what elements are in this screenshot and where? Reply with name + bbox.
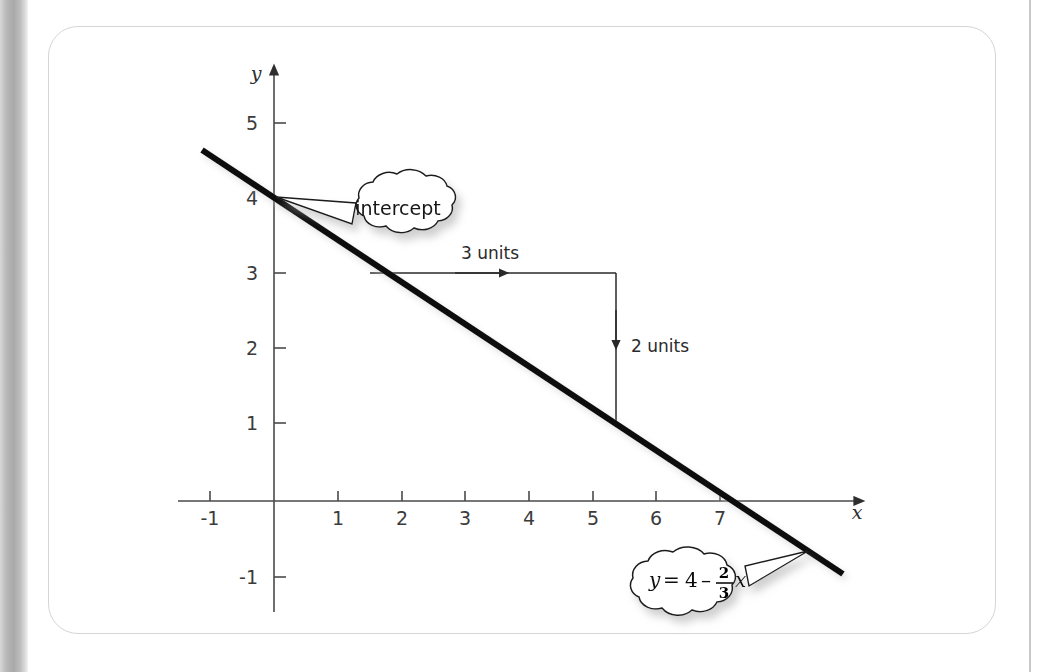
- axes-group: y x: [178, 62, 863, 612]
- run-guide-label: 3 units: [461, 243, 519, 263]
- equation-fraction-numerator: 2: [719, 564, 729, 582]
- equation-fraction-denominator: 3: [719, 584, 729, 602]
- x-tick-label: 3: [459, 507, 471, 529]
- x-tick-label: 6: [650, 507, 662, 529]
- equation-minus-sign: –: [701, 568, 711, 592]
- y-tick-label: -1: [239, 566, 258, 588]
- x-tick-label: 5: [587, 507, 599, 529]
- y-tick-label: 2: [246, 337, 258, 359]
- x-tick-label: 7: [714, 507, 726, 529]
- x-tick-label: -1: [201, 507, 220, 529]
- equation-variable: x: [735, 568, 746, 592]
- y-tick-label: 3: [246, 262, 258, 284]
- y-axis-name: y: [250, 62, 262, 84]
- equation-constant: 4: [685, 568, 698, 592]
- intercept-callout-text: intercept: [355, 197, 441, 219]
- linear-graph-chart: y x -1 1 2 3 4 5 6 7: [0, 0, 1047, 672]
- figure-page: y x -1 1 2 3 4 5 6 7: [0, 0, 1047, 672]
- slope-guide-group: 3 units 2 units: [370, 243, 689, 423]
- intercept-callout: intercept: [276, 170, 456, 233]
- x-tick-label: 2: [396, 507, 408, 529]
- y-tick-label: 5: [246, 112, 258, 134]
- y-tick-label: 4: [246, 187, 258, 209]
- y-tick-label: 1: [246, 412, 258, 434]
- equation-callout: y = 4 – 2 3 x: [630, 547, 808, 615]
- equation-lhs: y: [648, 568, 661, 592]
- x-tick-label: 1: [332, 507, 344, 529]
- equation-equals-sign: =: [663, 568, 680, 592]
- y-ticks-group: 5 4 3 2 1 -1: [239, 112, 286, 588]
- x-axis-name: x: [852, 501, 863, 523]
- equation-callout-tail: [745, 551, 808, 586]
- x-tick-label: 4: [523, 507, 535, 529]
- rise-guide-label: 2 units: [631, 336, 689, 356]
- x-ticks-group: -1 1 2 3 4 5 6 7: [201, 491, 727, 529]
